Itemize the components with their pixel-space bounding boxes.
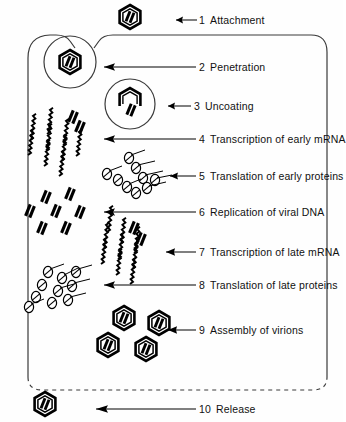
step-label-10: 10Release	[199, 403, 256, 415]
step-text-10: Release	[216, 403, 256, 415]
membrane-dashed-bottom	[28, 377, 327, 390]
step-label-7: 7Transcription of late mRNA	[199, 246, 340, 258]
step-text-8: Translation of late proteins	[210, 279, 338, 291]
step-label-2: 2Penetration	[199, 61, 265, 73]
replicated-viral-dna	[24, 187, 86, 235]
step-text-4: Transcription of early mRNA	[210, 133, 346, 145]
step-number-6: 6	[199, 206, 205, 218]
step-text-7: Transcription of late mRNA	[210, 246, 340, 258]
uncoating-vesicle	[105, 79, 155, 129]
step-number-7: 7	[199, 246, 205, 258]
step-text-1: Attachment	[210, 14, 265, 26]
step-number-4: 4	[199, 133, 205, 145]
arrow-step-9	[168, 326, 196, 334]
virion-attachment	[120, 5, 141, 29]
arrow-step-2	[104, 63, 196, 71]
arrow-step-4	[104, 135, 196, 143]
assembled-virions	[98, 306, 170, 361]
step-label-8: 8Translation of late proteins	[199, 279, 338, 291]
step-label-4: 4Transcription of early mRNA	[199, 133, 346, 145]
early-template-dna	[67, 110, 86, 134]
step-text-2: Penetration	[210, 61, 265, 73]
step-number-2: 2	[199, 61, 205, 73]
step-label-1: 1Attachment	[199, 14, 265, 26]
step-text-6: Replication of viral DNA	[210, 206, 324, 218]
step-number-1: 1	[199, 14, 205, 26]
virion-released	[35, 392, 56, 416]
step-number-9: 9	[199, 324, 205, 336]
late-mrna-group	[101, 206, 140, 284]
arrow-step-7	[166, 248, 196, 256]
step-text-3: Uncoating	[205, 100, 254, 112]
early-polyribosomes	[102, 150, 172, 199]
step-label-5: 5Translation of early proteins	[199, 170, 344, 182]
step-number-5: 5	[199, 170, 205, 182]
step-text-9: Assembly of virions	[210, 324, 303, 336]
step-label-9: 9Assembly of virions	[199, 324, 303, 336]
step-number-10: 10	[199, 403, 211, 415]
late-polyribosomes	[24, 264, 92, 313]
step-label-6: 6Replication of viral DNA	[199, 206, 324, 218]
step-text-5: Translation of early proteins	[210, 170, 344, 182]
step-number-8: 8	[199, 279, 205, 291]
endocytic-vesicle	[44, 36, 96, 88]
step-label-3: 3Uncoating	[194, 100, 254, 112]
step-number-3: 3	[194, 100, 200, 112]
arrow-step-5	[170, 172, 196, 179]
arrow-step-10	[96, 405, 196, 413]
arrow-step-8	[104, 281, 196, 289]
arrow-step-1	[176, 17, 197, 24]
arrow-step-3	[168, 103, 191, 110]
arrow-step-6	[104, 208, 196, 216]
